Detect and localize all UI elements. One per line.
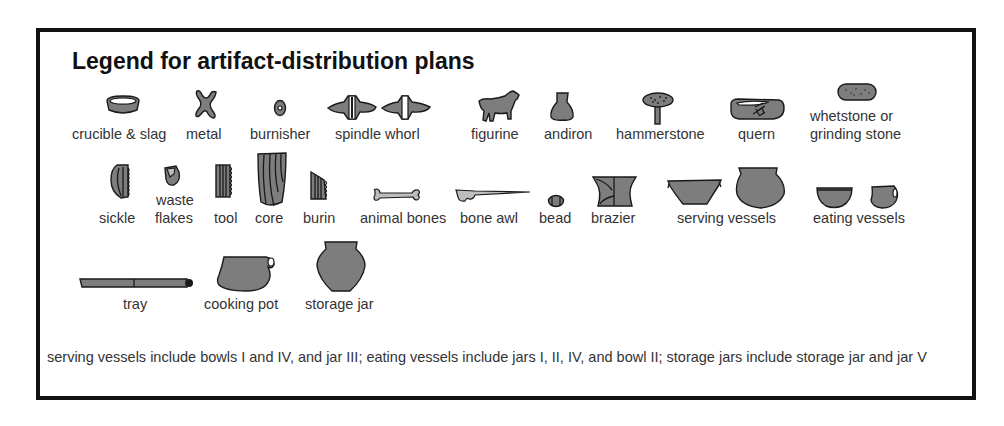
legend-footnote: serving vessels include bowls I and IV, … [47, 349, 927, 365]
label-whetstone-line1: whetstone or [810, 108, 893, 125]
hammerstone-icon [641, 91, 675, 125]
label-andiron: andiron [544, 126, 592, 143]
cooking-pot-icon [216, 255, 278, 293]
crucible-icon [106, 95, 140, 117]
label-crucible-slag: crucible & slag [72, 126, 166, 143]
label-hammerstone: hammerstone [616, 126, 705, 143]
storage-jar-icon [316, 241, 366, 293]
eating-vessels-icon [816, 185, 900, 211]
animal-bone-icon [372, 188, 422, 202]
label-figurine: figurine [471, 126, 519, 143]
brazier-icon [592, 176, 638, 208]
label-spindle-whorl: spindle whorl [335, 126, 420, 143]
label-bone-awl: bone awl [460, 210, 518, 227]
label-whetstone-line2: grinding stone [810, 126, 901, 143]
andiron-icon [549, 92, 575, 122]
legend-title: Legend for artifact-distribution plans [72, 48, 475, 75]
label-metal: metal [186, 126, 221, 143]
bone-awl-icon [455, 189, 531, 205]
serving-vessels-icon [667, 166, 787, 210]
label-burnisher: burnisher [250, 126, 310, 143]
bead-icon [547, 194, 565, 208]
burin-icon [310, 171, 330, 201]
label-quern: quern [738, 126, 775, 143]
label-waste-line2: flakes [155, 210, 193, 227]
label-tray: tray [123, 296, 147, 313]
waste-flakes-icon [162, 165, 182, 187]
whetstone-icon [837, 83, 877, 101]
metal-icon [194, 89, 218, 119]
tray-icon [79, 276, 195, 290]
label-waste-line1: waste [156, 192, 194, 209]
label-cooking-pot: cooking pot [204, 296, 278, 313]
label-burin: burin [303, 210, 335, 227]
label-sickle: sickle [99, 210, 135, 227]
figurine-icon [477, 89, 521, 123]
tool-icon [215, 164, 235, 198]
label-serving-vessels: serving vessels [677, 210, 776, 227]
label-animal-bones: animal bones [360, 210, 446, 227]
burnisher-icon [273, 99, 287, 117]
label-eating-vessels: eating vessels [813, 210, 905, 227]
label-tool: tool [214, 210, 237, 227]
label-core: core [255, 210, 283, 227]
sickle-icon [109, 164, 131, 200]
label-brazier: brazier [591, 210, 635, 227]
label-storage-jar: storage jar [305, 296, 374, 313]
quern-icon [729, 97, 785, 121]
core-icon [256, 152, 288, 208]
spindle-whorl-icon [326, 94, 432, 122]
label-bead: bead [539, 210, 571, 227]
